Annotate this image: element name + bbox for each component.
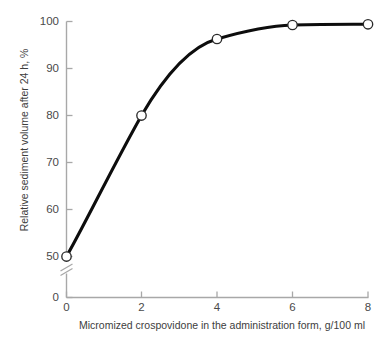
data-point-markers [62,20,373,262]
y-tick-label-1: 90 [46,62,59,74]
data-point-0 [62,252,71,261]
x-tick-label-1: 2 [138,301,144,313]
y-tick-label-4: 60 [46,203,59,215]
y-tick-label-3: 70 [46,156,59,168]
y-axis-title: Relative sediment volume after 24 h, % [18,49,30,232]
x-tick-label-3: 6 [289,301,295,313]
x-tick-label-0: 0 [63,301,69,313]
x-axis-title: Micromized crospovidone in the administr… [79,319,365,331]
data-series-line [67,24,369,256]
y-tick-label-2: 80 [46,109,59,121]
data-point-4 [363,20,372,29]
y-tick-label-0: 100 [40,15,59,27]
x-tick-marks [67,292,369,298]
data-point-2 [212,34,221,43]
chart-plot-area: 100 90 80 70 60 50 0 0 2 4 6 8 Micromize… [0,0,381,339]
data-point-3 [288,20,297,29]
data-point-1 [137,111,146,120]
chart-figure: 100 90 80 70 60 50 0 0 2 4 6 8 Micromize… [0,0,381,339]
y-tick-label-6: 0 [53,291,59,303]
x-tick-label-4: 8 [365,301,371,313]
y-tick-label-5: 50 [46,250,59,262]
x-tick-label-2: 4 [214,301,221,313]
